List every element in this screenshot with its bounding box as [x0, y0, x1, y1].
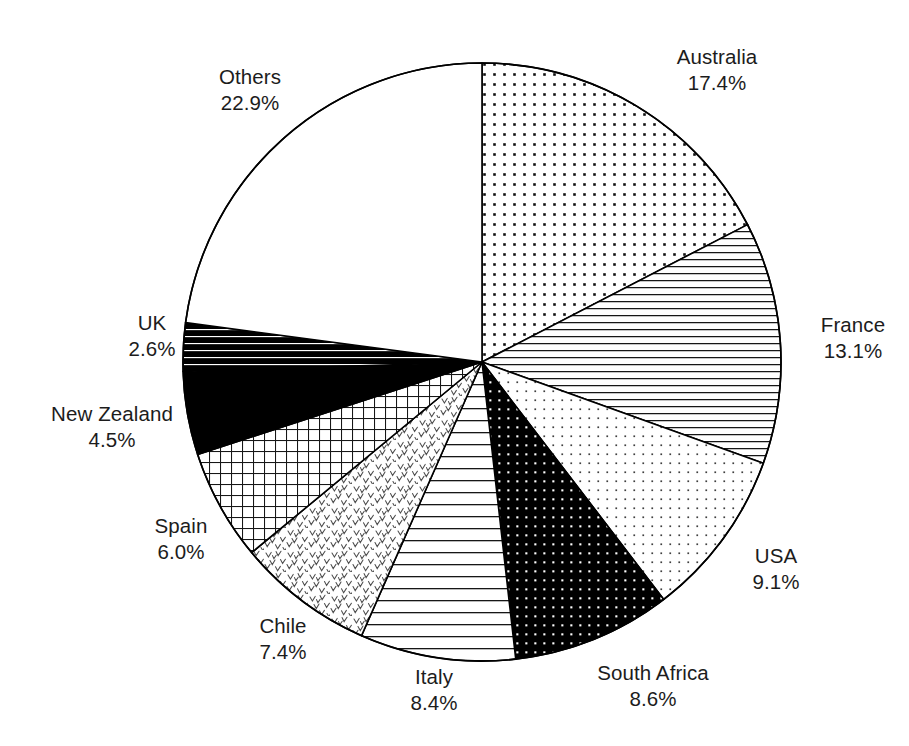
slice-label-value: 17.4% [607, 70, 827, 96]
slice-label-name: UK [42, 310, 262, 336]
slice-label-uk: UK2.6% [42, 310, 262, 362]
slice-label-value: 13.1% [743, 338, 909, 364]
slice-label-australia: Australia17.4% [607, 44, 827, 96]
slice-label-value: 8.4% [324, 690, 544, 716]
slice-label-value: 4.5% [2, 427, 222, 453]
slice-label-name: USA [666, 543, 886, 569]
slice-label-name: Australia [607, 44, 827, 70]
slice-label-name: Italy [324, 664, 544, 690]
slice-label-name: Chile [173, 613, 393, 639]
slice-label-italy: Italy8.4% [324, 664, 544, 716]
slice-label-new-zealand: New Zealand4.5% [2, 401, 222, 453]
slice-label-chile: Chile7.4% [173, 613, 393, 665]
slice-label-usa: USA9.1% [666, 543, 886, 595]
slice-label-name: Others [140, 64, 360, 90]
slice-label-others: Others22.9% [140, 64, 360, 116]
pie-chart: Australia17.4%France13.1%USA9.1%South Af… [0, 0, 909, 746]
slice-label-name: New Zealand [2, 401, 222, 427]
slice-label-name: South Africa [543, 660, 763, 686]
slice-label-name: Spain [71, 513, 291, 539]
slice-label-spain: Spain6.0% [71, 513, 291, 565]
slice-label-value: 8.6% [543, 686, 763, 712]
slice-label-value: 9.1% [666, 569, 886, 595]
slice-label-south-africa: South Africa8.6% [543, 660, 763, 712]
pie-chart-canvas [0, 0, 909, 746]
slice-label-value: 2.6% [42, 336, 262, 362]
slice-label-value: 22.9% [140, 90, 360, 116]
slice-label-value: 7.4% [173, 639, 393, 665]
slice-label-value: 6.0% [71, 539, 291, 565]
slice-label-name: France [743, 312, 909, 338]
slice-label-france: France13.1% [743, 312, 909, 364]
